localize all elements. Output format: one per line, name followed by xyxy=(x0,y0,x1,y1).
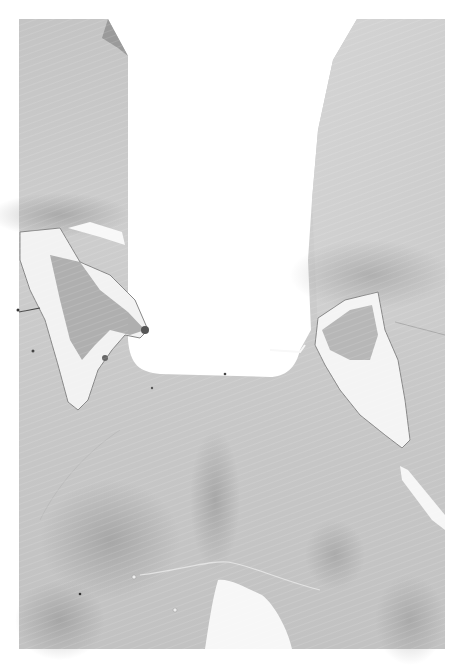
tissue-section-svg xyxy=(0,0,451,666)
histology-micrograph xyxy=(0,0,451,666)
